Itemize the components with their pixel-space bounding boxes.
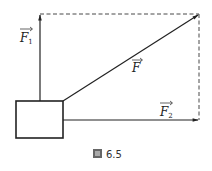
svg-text:6.5: 6.5 <box>106 149 122 160</box>
label-f1: F1 <box>19 27 33 46</box>
svg-text:F1: F1 <box>19 31 33 46</box>
figure-caption: 6.5 <box>93 149 122 160</box>
object-box <box>16 101 63 138</box>
svg-text:F: F <box>131 61 141 75</box>
force-diagram: F1 F F2 6.5 <box>0 0 212 171</box>
label-f: F <box>131 58 143 75</box>
label-f2: F2 <box>159 101 173 120</box>
force-f-arrow <box>63 15 198 101</box>
svg-text:F2: F2 <box>159 105 173 120</box>
